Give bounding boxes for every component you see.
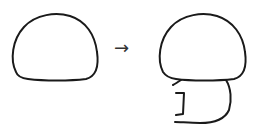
step-1-dome [13, 14, 98, 80]
diagram-canvas: → [0, 0, 258, 132]
arrow-icon: → [114, 38, 129, 58]
step-2-body [173, 80, 231, 123]
step-2-dome [160, 14, 246, 80]
drawing-svg [0, 0, 258, 132]
